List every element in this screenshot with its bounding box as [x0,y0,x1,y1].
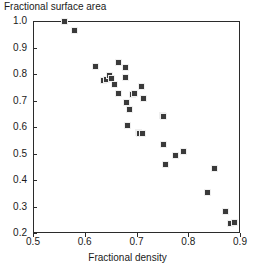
data-point [123,99,130,106]
data-point [115,90,122,97]
data-point [124,122,131,129]
y-tick-label: 0.4 [3,175,27,185]
data-point [140,95,147,102]
data-point [139,130,146,137]
y-tick-label: 0.6 [3,122,27,132]
data-point [172,152,179,159]
y-tick-label: 0.9 [3,43,27,53]
data-point [122,64,129,71]
scatter-chart-figure: Fractional surface area 0.20.30.40.50.60… [0,0,255,270]
x-tick-label: 0.6 [70,236,100,247]
y-tick-label: 0.7 [3,96,27,106]
data-point [204,189,211,196]
data-point [122,74,129,81]
data-point [180,148,187,155]
y-tick-label: 0.5 [3,149,27,159]
data-point [92,63,99,70]
data-point [160,141,167,148]
data-point [111,81,118,88]
data-point [138,83,145,90]
x-tick-label: 0.9 [225,236,255,247]
y-tick-label: 1.0 [3,16,27,26]
data-point [131,90,138,97]
data-point [160,113,167,120]
y-tick-label: 0.3 [3,202,27,212]
data-points-layer [33,21,240,233]
data-point [231,219,238,226]
data-point [211,165,218,172]
y-tick-label: 0.8 [3,69,27,79]
x-tick-label: 0.5 [18,236,48,247]
x-tick-label: 0.8 [173,236,203,247]
data-point [126,106,133,113]
x-axis-title: Fractional density [0,252,255,264]
y-axis-title: Fractional surface area [4,1,106,13]
x-tick-label: 0.7 [122,236,152,247]
data-point [61,18,68,25]
data-point [71,27,78,34]
data-point [162,161,169,168]
data-point [222,208,229,215]
